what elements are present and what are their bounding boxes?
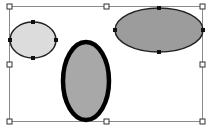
- resize-handle-bottom-right[interactable]: [200, 119, 205, 124]
- resize-handle-top-left[interactable]: [7, 4, 12, 9]
- resize-handle-top-right[interactable]: [200, 4, 205, 9]
- ellipse-wide-right-point-handle-right[interactable]: [201, 28, 205, 32]
- ellipse-small-left[interactable]: [10, 22, 56, 58]
- ellipse-wide-right-point-handle-bottom[interactable]: [157, 50, 161, 54]
- ellipse-small-left-point-handle-bottom[interactable]: [31, 56, 35, 60]
- ellipse-tall-middle[interactable]: [63, 42, 109, 120]
- resize-handle-top-middle[interactable]: [104, 4, 109, 9]
- drawing-canvas[interactable]: [0, 0, 208, 128]
- ellipse-wide-right-point-handle-left[interactable]: [113, 28, 117, 32]
- ellipse-wide-right[interactable]: [115, 8, 203, 52]
- ellipse-wide-right-point-handle-top[interactable]: [157, 6, 161, 10]
- resize-handle-middle-left[interactable]: [7, 62, 12, 67]
- ellipse-small-left-point-handle-left[interactable]: [8, 38, 12, 42]
- resize-handle-bottom-middle[interactable]: [104, 119, 109, 124]
- ellipse-small-left-point-handle-top[interactable]: [31, 20, 35, 24]
- ellipse-small-left-point-handle-right[interactable]: [54, 38, 58, 42]
- resize-handle-bottom-left[interactable]: [7, 119, 12, 124]
- resize-handle-middle-right[interactable]: [200, 62, 205, 67]
